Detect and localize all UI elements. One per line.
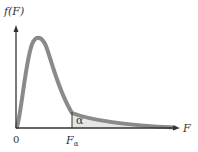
x-axis-label: F xyxy=(182,122,191,135)
f-distribution-diagram: f(F) F 0 Fα α xyxy=(0,0,198,152)
critical-value-label-sub: α xyxy=(74,140,79,148)
critical-value-label: Fα xyxy=(65,134,79,148)
y-axis-label: f(F) xyxy=(3,5,24,18)
density-curve xyxy=(17,38,175,128)
origin-label: 0 xyxy=(13,134,19,145)
y-axis-arrow-icon xyxy=(14,25,19,32)
tail-area-label: α xyxy=(76,114,84,127)
critical-value-label-main: F xyxy=(65,134,74,147)
